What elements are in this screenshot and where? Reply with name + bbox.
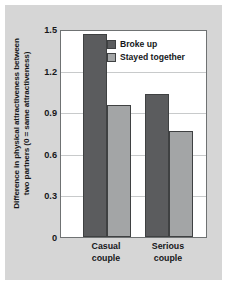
legend-swatch-icon (107, 40, 116, 49)
plot-area: Broke up Stayed together (60, 30, 207, 238)
legend-label: Stayed together (120, 52, 185, 62)
legend-item-broke-up: Broke up (107, 38, 185, 50)
bar-casual-broke-up (83, 34, 107, 237)
x-axis-tick-labels: Casual couple Serious couple (60, 241, 207, 275)
y-axis-label: Difference in physical attractiveness be… (5, 5, 39, 242)
chart-legend: Broke up Stayed together (107, 38, 185, 64)
bar-serious-stayed-together (169, 131, 193, 237)
bar-serious-broke-up (145, 94, 169, 237)
y-axis-label-line-2: two partners (0 = same attractiveness) (22, 38, 32, 208)
y-tick-label: 0.6 (44, 150, 57, 160)
y-axis-tick-labels: 1.5 1.2 0.9 0.6 0.3 0 (39, 30, 59, 238)
x-tick-label-serious-couple: Serious couple (133, 241, 203, 264)
x-tick-line-1: Casual (71, 241, 141, 253)
x-tick-line-2: couple (133, 253, 203, 265)
y-tick-label: 0.3 (44, 191, 57, 201)
y-tick-label: 1.2 (44, 67, 57, 77)
x-tick-line-1: Serious (133, 241, 203, 253)
legend-swatch-icon (107, 53, 116, 62)
y-tick-label: 0.9 (44, 108, 57, 118)
legend-label: Broke up (120, 39, 157, 49)
y-tick-label: 1.5 (44, 25, 57, 35)
y-axis-label-line-1: Difference in physical attractiveness be… (12, 38, 22, 208)
legend-item-stayed-together: Stayed together (107, 51, 185, 63)
x-tick-label-casual-couple: Casual couple (71, 241, 141, 264)
bar-casual-stayed-together (107, 105, 131, 237)
chart-figure: Difference in physical attractiveness be… (5, 5, 222, 280)
y-tick-label: 0 (52, 233, 57, 243)
x-tick-line-2: couple (71, 253, 141, 265)
